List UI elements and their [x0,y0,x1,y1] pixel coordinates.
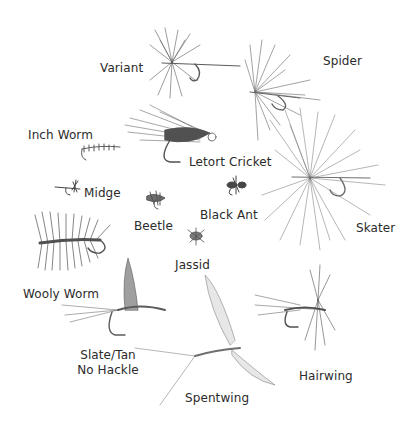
midge-fly-icon [55,180,80,195]
label-midge: Midge [84,186,121,201]
label-slate-tan-line1: Slate/Tan [77,348,139,363]
label-wooly-worm: Wooly Worm [23,287,99,302]
label-slate-tan: Slate/Tan No Hackle [77,348,139,378]
spider-fly-icon [245,40,320,140]
label-spider: Spider [323,54,362,69]
wooly-worm-fly-icon [35,212,110,270]
label-letort-cricket: Letort Cricket [189,155,272,170]
label-slate-tan-line2: No Hackle [77,363,139,378]
label-spentwing: Spentwing [185,391,249,406]
fly-illustration: Variant Spider Inch Worm Letort Cricket … [0,0,410,433]
label-skater: Skater [356,221,395,236]
label-inch-worm: Inch Worm [28,128,93,143]
beetle-fly-icon [147,191,165,209]
label-beetle: Beetle [134,219,173,234]
inch-worm-fly-icon [82,144,121,160]
black-ant-fly-icon [227,176,246,195]
variant-fly-icon [150,28,240,98]
label-black-ant: Black Ant [200,208,258,223]
label-jassid: Jassid [175,258,210,273]
hairwing-fly-icon [255,265,335,350]
letort-cricket-fly-icon [125,105,216,162]
jassid-fly-icon [188,228,204,245]
label-variant: Variant [100,61,143,76]
label-hairwing: Hairwing [299,369,353,384]
spentwing-fly-icon [135,275,275,405]
